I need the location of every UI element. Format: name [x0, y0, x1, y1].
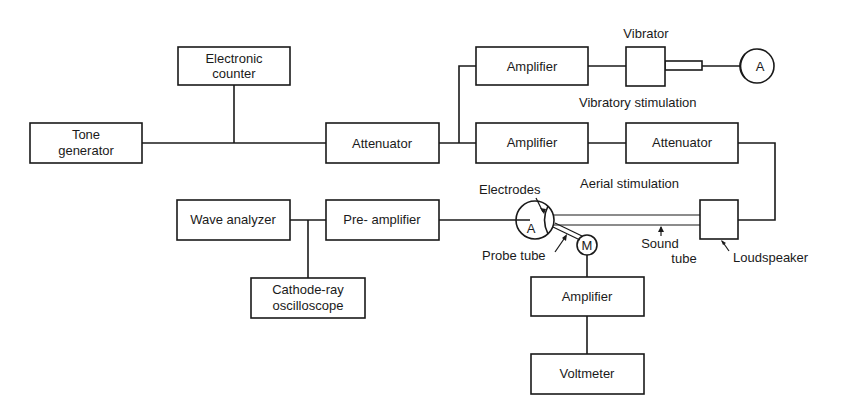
attenuator-aerial-label: Attenuator — [652, 135, 713, 150]
electronic-counter-label-2: counter — [212, 66, 256, 81]
microphone: M — [577, 235, 597, 255]
aerial-stimulation-label: Aerial stimulation — [580, 176, 679, 191]
vibratory-stimulation-label: Vibratory stimulation — [579, 95, 697, 110]
block-tone-generator: Tone generator — [30, 123, 142, 163]
block-amplifier-vibratory: Amplifier — [476, 47, 588, 85]
microphone-symbol: M — [582, 238, 593, 253]
vibrator-rod — [665, 61, 702, 70]
tone-generator-label-2: generator — [58, 143, 114, 158]
voltmeter-label: Voltmeter — [560, 366, 616, 381]
sound-tube-label-2: tube — [671, 251, 696, 266]
block-loudspeaker — [700, 200, 738, 239]
block-attenuator-aerial: Attenuator — [626, 123, 738, 163]
amplifier-aerial-label: Amplifier — [507, 135, 558, 150]
probe-tube-label: Probe tube — [482, 248, 546, 263]
electrodes-label: Electrodes — [479, 182, 541, 197]
attenuator-main-label: Attenuator — [352, 136, 413, 151]
block-voltmeter: Voltmeter — [531, 354, 644, 394]
loudspeaker-arrowhead — [721, 240, 726, 245]
block-vibrator — [626, 47, 665, 86]
tone-generator-label-1: Tone — [72, 127, 100, 142]
block-amplifier-aerial: Amplifier — [476, 123, 588, 163]
wire-split-to-amplifier-vibratory — [459, 66, 476, 143]
electronic-counter-label-1: Electronic — [205, 51, 263, 66]
animal-vibratory: A — [740, 49, 774, 83]
block-electronic-counter: Electronic counter — [178, 47, 290, 85]
sound-tube-arrowhead — [658, 226, 664, 232]
block-oscilloscope: Cathode-ray oscilloscope — [251, 278, 365, 318]
oscilloscope-label-2: oscilloscope — [273, 298, 344, 313]
block-wave-analyzer: Wave analyzer — [177, 200, 290, 240]
amplifier-microphone-label: Amplifier — [562, 289, 613, 304]
sound-tube-label-1: Sound — [641, 236, 679, 251]
amplifier-vibratory-label: Amplifier — [507, 59, 558, 74]
block-amplifier-microphone: Amplifier — [531, 277, 644, 316]
block-pre-amplifier: Pre- amplifier — [326, 200, 439, 240]
wire-attenuator-to-loudspeaker — [738, 143, 775, 220]
animal-vibratory-ear — [741, 54, 746, 78]
loudspeaker-label: Loudspeaker — [733, 250, 809, 265]
animal-vibratory-symbol: A — [756, 59, 765, 74]
vibrator-label: Vibrator — [623, 26, 669, 41]
oscilloscope-label-1: Cathode-ray — [272, 282, 344, 297]
wave-analyzer-label: Wave analyzer — [190, 212, 276, 227]
animal-aerial-symbol: A — [527, 221, 536, 236]
pre-amplifier-label: Pre- amplifier — [343, 212, 421, 227]
block-diagram: Tone generator Electronic counter Attenu… — [0, 0, 841, 410]
block-attenuator-main: Attenuator — [326, 123, 439, 163]
